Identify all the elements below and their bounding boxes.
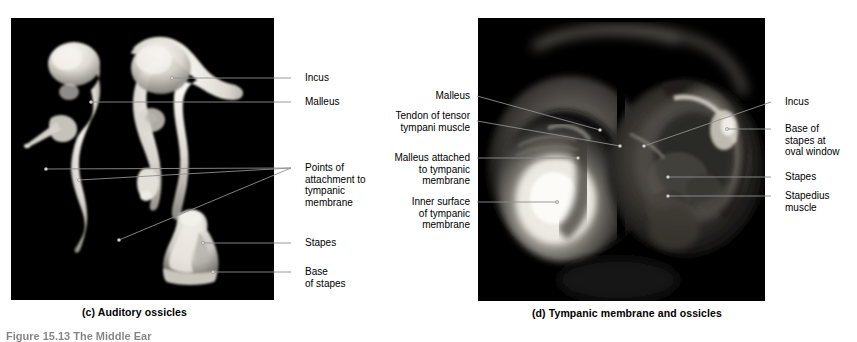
ossicle-region: [608, 80, 764, 256]
label-malleus-panel-d: Malleus: [355, 90, 470, 102]
label-malleus-panel-c: Malleus: [305, 96, 339, 108]
figure-caption: Figure 15.13 The Middle Ear: [6, 330, 152, 342]
ossicle-bones-artwork: [11, 18, 274, 300]
label-base-stapes-oval-window-panel-d: Base of stapes at oval window: [785, 123, 839, 158]
label-incus-panel-d: Incus: [785, 96, 809, 108]
tympanic-membrane-artwork: [478, 18, 765, 301]
panel-d-caption: (d) Tympanic membrane and ossicles: [532, 307, 722, 319]
label-incus-panel-c: Incus: [305, 72, 329, 84]
label-inner-surface-panel-d: Inner surface of tympanic membrane: [355, 196, 470, 231]
label-stapes-panel-c: Stapes: [305, 237, 336, 249]
panel-c-caption: (c) Auditory ossicles: [82, 306, 187, 318]
label-stapes-panel-d: Stapes: [785, 171, 816, 183]
label-malleus-attached-panel-d: Malleus attached to tympanic membrane: [355, 152, 470, 187]
panel-d-tympanic-membrane-image: [478, 18, 765, 301]
panel-c-auditory-ossicles-image: [11, 18, 274, 300]
label-base-of-stapes-panel-c: Base of stapes: [305, 266, 346, 289]
label-stapedius-muscle-panel-d: Stapedius muscle: [785, 190, 829, 213]
label-tendon-tensor-tympani-panel-d: Tendon of tensor tympani muscle: [355, 110, 470, 133]
